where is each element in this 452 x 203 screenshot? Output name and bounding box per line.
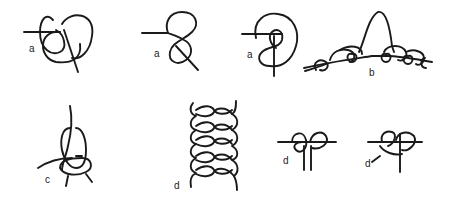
label-a3: a <box>247 49 253 60</box>
knot-a1: a <box>24 15 92 72</box>
label-d1: d <box>174 180 180 191</box>
label-a1: a <box>29 43 35 54</box>
label-d2: d <box>283 155 289 166</box>
knot-c: c <box>38 106 92 186</box>
knot-b: b <box>304 12 432 78</box>
knot-a2: a <box>142 12 198 70</box>
knot-a3: a <box>242 14 297 76</box>
knot-d1: d <box>174 101 238 191</box>
knot-d2: d <box>278 133 336 170</box>
knot-d3: d <box>365 131 422 172</box>
label-c: c <box>45 174 50 185</box>
knot-diagram: a a a b <box>0 0 452 203</box>
label-b: b <box>369 67 375 78</box>
label-d3: d <box>365 158 371 169</box>
label-a2: a <box>154 48 160 59</box>
